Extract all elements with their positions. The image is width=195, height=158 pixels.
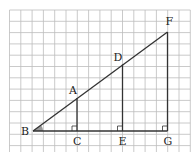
label-point-d: D bbox=[114, 51, 123, 64]
label-point-f: F bbox=[166, 15, 174, 28]
right-angle-marker-e bbox=[118, 126, 123, 131]
point-labels: BCEGADF bbox=[21, 15, 174, 148]
right-angle-marker-g bbox=[163, 126, 168, 131]
similar-triangles-diagram: BCEGADF bbox=[0, 0, 195, 158]
right-angle-marker-c bbox=[72, 126, 77, 131]
label-point-c: C bbox=[73, 135, 81, 148]
label-point-a: A bbox=[68, 84, 78, 97]
label-point-e: E bbox=[119, 135, 127, 148]
label-point-g: G bbox=[164, 135, 173, 148]
label-point-b: B bbox=[21, 125, 29, 138]
